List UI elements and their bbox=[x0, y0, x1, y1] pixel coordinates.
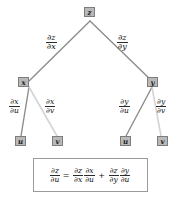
formula-lhs-den: ∂u bbox=[50, 176, 61, 184]
edge-label-dx-du-den: ∂u bbox=[9, 107, 20, 115]
edge-label-dx-du: ∂x ∂u bbox=[9, 98, 20, 114]
formula-term1-a-den: ∂x bbox=[73, 176, 83, 184]
node-u-right-label: u bbox=[123, 138, 128, 145]
node-y: y bbox=[147, 77, 158, 87]
node-v-left: v bbox=[52, 136, 63, 146]
formula-term2-a-den: ∂y bbox=[109, 176, 119, 184]
node-x: x bbox=[18, 77, 29, 87]
formula-term-2: ∂z ∂y ∂y ∂u bbox=[108, 167, 131, 183]
edge-label-dz-dx: ∂z ∂x bbox=[46, 34, 57, 51]
node-x-label: x bbox=[21, 79, 25, 86]
node-u-left: u bbox=[15, 136, 26, 146]
node-y-label: y bbox=[150, 79, 154, 86]
node-v-right: v bbox=[157, 136, 168, 146]
node-v-left-label: v bbox=[55, 138, 59, 145]
formula-lhs: ∂z ∂u bbox=[50, 167, 61, 183]
formula-term2-a: ∂z ∂y bbox=[109, 167, 119, 183]
node-z: z bbox=[84, 7, 95, 17]
edge-label-dx-dv-den: ∂v bbox=[45, 107, 55, 115]
edge-label-dz-dy: ∂z ∂y bbox=[117, 34, 128, 51]
node-u-right: u bbox=[120, 136, 131, 146]
edge-z-x bbox=[29, 21, 90, 81]
chain-rule-formula: ∂z ∂u = ∂z ∂x ∂x ∂u + ∂z ∂y bbox=[49, 167, 132, 183]
edge-label-dy-dv-den: ∂v bbox=[156, 107, 166, 115]
edge-x-u bbox=[21, 87, 29, 136]
formula-plus: + bbox=[98, 171, 105, 180]
node-z-label: z bbox=[88, 9, 92, 16]
formula-term1-b-den: ∂u bbox=[84, 176, 95, 184]
formula-term-1: ∂z ∂x ∂x ∂u bbox=[73, 167, 96, 183]
edge-label-dy-dv: ∂y ∂v bbox=[156, 98, 166, 114]
node-v-right-label: v bbox=[160, 138, 164, 145]
chain-rule-formula-box: ∂z ∂u = ∂z ∂x ∂x ∂u + ∂z ∂y bbox=[33, 158, 148, 192]
edge-label-dy-du: ∂y ∂u bbox=[119, 98, 130, 114]
edge-label-dz-dx-den: ∂x bbox=[46, 43, 57, 51]
formula-term1-a: ∂z ∂x bbox=[73, 167, 83, 183]
formula-equals: = bbox=[63, 171, 70, 180]
edge-label-dx-dv: ∂x ∂v bbox=[45, 98, 55, 114]
node-u-left-label: u bbox=[18, 138, 23, 145]
chain-rule-diagram: z x y u v u v ∂z ∂x ∂z ∂y ∂x ∂u ∂x ∂v ∂y… bbox=[0, 0, 181, 199]
edge-y-u bbox=[126, 87, 152, 136]
edge-label-dy-du-den: ∂u bbox=[119, 107, 130, 115]
formula-term2-b-den: ∂u bbox=[120, 176, 131, 184]
formula-term1-b: ∂x ∂u bbox=[84, 167, 95, 183]
edge-label-dz-dy-den: ∂y bbox=[117, 43, 128, 51]
formula-term2-b: ∂y ∂u bbox=[120, 167, 131, 183]
